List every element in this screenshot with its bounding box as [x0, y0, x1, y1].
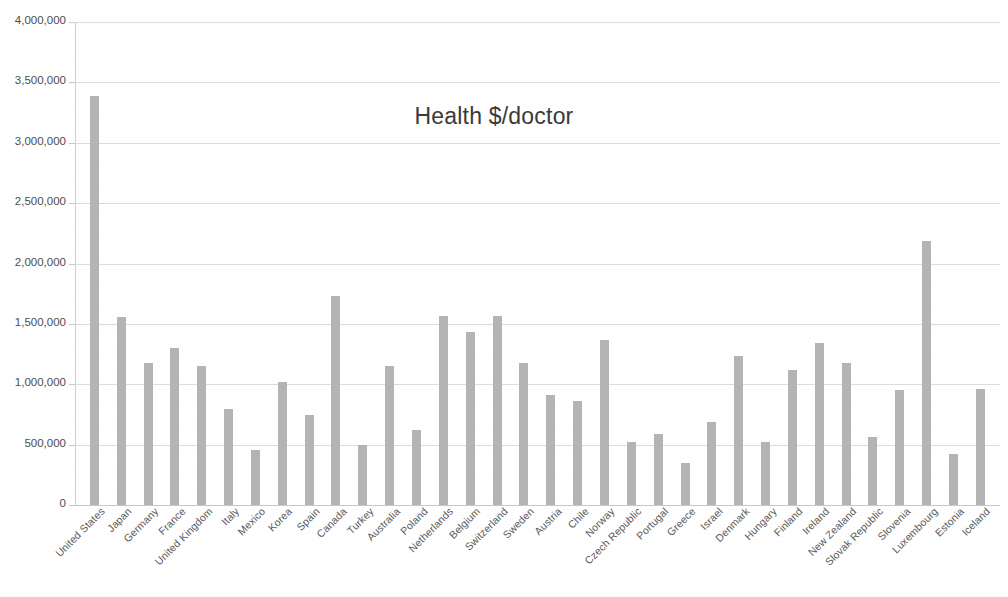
bar: [573, 401, 582, 505]
chart-title: Health $/doctor: [0, 103, 1008, 130]
bar: [305, 415, 314, 505]
x-axis-tick-label: Mexico: [235, 505, 267, 537]
chart-container: 4,000,0003,500,0003,000,0002,500,0002,00…: [0, 0, 1008, 597]
bar: [197, 366, 206, 505]
y-axis-tick-label: 3,500,000: [0, 74, 66, 86]
bar: [90, 96, 99, 505]
x-axis-tick-label: Korea: [266, 505, 295, 534]
bar: [385, 366, 394, 505]
bar: [949, 454, 958, 505]
bar: [842, 363, 851, 505]
bar: [224, 409, 233, 505]
x-axis-labels: United StatesJapanGermanyFranceUnited Ki…: [75, 505, 1000, 597]
bar: [170, 348, 179, 505]
x-axis-tick-label: Austria: [532, 505, 564, 537]
bar: [439, 316, 448, 505]
bar: [922, 241, 931, 505]
gridline: [75, 384, 1000, 385]
bar: [895, 390, 904, 505]
bar: [627, 442, 636, 505]
bar: [868, 437, 877, 505]
bar: [251, 450, 260, 505]
bar: [707, 422, 716, 505]
y-axis-tick-label: 2,500,000: [0, 195, 66, 207]
bar: [117, 317, 126, 505]
bar: [546, 395, 555, 505]
bar: [815, 343, 824, 505]
x-axis-tick-label: Finland: [772, 505, 805, 538]
bar: [788, 370, 797, 505]
gridline: [75, 445, 1000, 446]
x-axis-tick-label: United States: [53, 505, 107, 559]
bar: [144, 363, 153, 505]
bar: [976, 389, 985, 505]
bar: [681, 463, 690, 505]
bar: [412, 430, 421, 505]
gridline: [75, 82, 1000, 83]
bar: [331, 296, 340, 506]
bar: [734, 356, 743, 505]
y-axis-tick-label: 1,500,000: [0, 316, 66, 328]
x-axis-tick-label: Iceland: [960, 505, 993, 538]
bar: [654, 434, 663, 505]
gridline: [75, 264, 1000, 265]
bar: [466, 332, 475, 505]
gridline: [75, 203, 1000, 204]
bar: [493, 316, 502, 505]
x-axis-tick-label: Greece: [664, 505, 697, 538]
chart-title-text: Health $/doctor: [415, 103, 574, 129]
bar: [278, 382, 287, 505]
y-axis-tick-label: 3,000,000: [0, 135, 66, 147]
x-axis-tick-label: Italy: [218, 505, 240, 527]
y-axis-tick-label: 1,000,000: [0, 376, 66, 388]
gridline: [75, 143, 1000, 144]
gridline: [75, 22, 1000, 23]
y-axis-tick-label: 4,000,000: [0, 14, 66, 26]
plot-area: [75, 22, 1000, 505]
y-axis-tick-label: 2,000,000: [0, 256, 66, 268]
gridline: [75, 324, 1000, 325]
y-axis-tick-label: 0: [0, 497, 66, 509]
bar: [761, 442, 770, 505]
y-axis-tick-label: 500,000: [0, 437, 66, 449]
bar: [519, 363, 528, 505]
bar: [600, 340, 609, 505]
bar: [358, 445, 367, 505]
